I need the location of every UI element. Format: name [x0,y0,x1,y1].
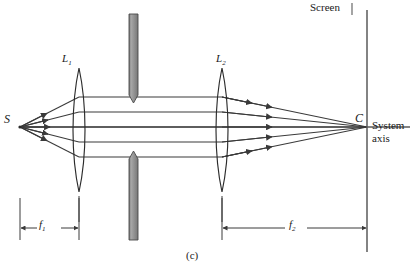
focal-length-2-subscript: 2 [292,225,296,233]
lens-L2-body [216,68,228,192]
panel-label: (c) [186,250,198,261]
lens1-label: L1 [62,53,72,67]
lens2-label-subscript: 2 [222,59,226,67]
collimated-ray-bundle [79,97,222,157]
dimension-f1 [20,198,79,240]
lens2-label: L2 [216,53,226,67]
aperture-stop-upper-bar [129,14,138,103]
convergence-point-label: C [355,112,363,124]
lens1-label-subscript: 1 [68,59,72,67]
focal-length-2-label: f2 [289,219,296,233]
focal-length-1-subscript: 1 [42,225,46,233]
system-axis-label-line2: axis [372,133,390,144]
source-label: S [4,113,10,125]
source-point-marker [18,125,21,128]
system-axis-label-line1: System [372,120,404,131]
converging-ray-arrowheads [222,97,272,157]
lens-L1-body [73,68,85,192]
optics-ray-diagram [0,0,412,274]
diverging-ray-arrowheads [20,113,50,140]
screen-label: Screen [310,2,340,13]
focal-length-1-label: f1 [39,219,46,233]
aperture-stop-lower-bar [129,151,138,240]
